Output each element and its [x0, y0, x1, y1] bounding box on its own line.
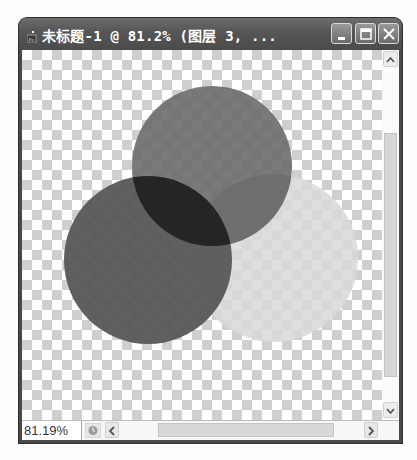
zoom-level-field[interactable]: 81.19% — [22, 421, 82, 440]
status-info-icon[interactable] — [85, 423, 101, 438]
circles-artwork — [22, 50, 382, 420]
horizontal-scroll-thumb[interactable] — [158, 423, 334, 437]
vertical-scroll-thumb[interactable] — [384, 133, 397, 377]
maximize-icon — [356, 24, 377, 45]
photoshop-document-icon[interactable]: Ps — [27, 28, 38, 40]
status-bar: 81.19% — [22, 420, 399, 440]
document-client-area: 81.19% — [22, 50, 399, 440]
minimize-icon — [332, 24, 353, 45]
svg-text:Ps: Ps — [29, 37, 35, 43]
document-window: Ps 未标题-1 @ 81.2% (图层 3, ... — [19, 18, 402, 443]
chevron-left-icon — [106, 424, 118, 438]
chevron-right-icon — [365, 424, 377, 438]
scroll-down-button[interactable] — [383, 402, 398, 418]
scroll-right-button[interactable] — [364, 422, 378, 438]
minimize-button[interactable] — [331, 23, 352, 44]
maximize-button[interactable] — [355, 23, 376, 44]
title-bar[interactable]: Ps 未标题-1 @ 81.2% (图层 3, ... — [19, 18, 402, 50]
window-title: 未标题-1 @ 81.2% (图层 3, ... — [42, 25, 277, 45]
scroll-up-button[interactable] — [383, 51, 398, 67]
vertical-scrollbar[interactable] — [382, 50, 399, 420]
close-icon — [379, 24, 400, 45]
scroll-left-button[interactable] — [105, 422, 119, 438]
canvas[interactable] — [22, 50, 382, 420]
close-button[interactable] — [378, 23, 399, 44]
chevron-up-icon — [384, 53, 397, 67]
chevron-down-icon — [384, 404, 397, 418]
